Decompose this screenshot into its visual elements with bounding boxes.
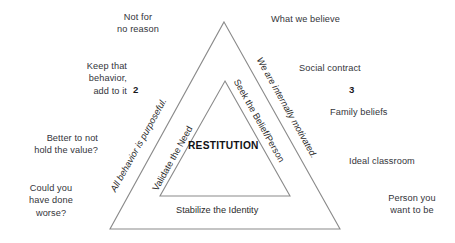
note-not-for-no-reason: Not for no reason	[101, 11, 175, 36]
diagram-canvas: RESTITUTION Stabilize the Identity All b…	[0, 0, 455, 243]
note-what-we-believe: What we believe	[271, 13, 381, 25]
note-person-you-want-to-be: Person you want to be	[375, 192, 449, 217]
note-social-contract: Social contract	[299, 62, 409, 74]
numeral-2: 2	[133, 84, 138, 95]
note-ideal-classroom: Ideal classroom	[349, 155, 455, 167]
numeral-3: 3	[349, 84, 354, 95]
note-keep-that-behavior: Keep that behavior, add to it	[49, 60, 127, 97]
note-family-beliefs: Family beliefs	[330, 106, 440, 118]
note-could-you-have-done-worse: Could you have done worse?	[12, 182, 90, 219]
edge-label-stabilize-the-identity: Stabilize the Identity	[176, 205, 258, 215]
core-label-restitution: RESTITUTION	[188, 140, 259, 151]
note-better-to-not-hold-the-value: Better to not hold the value?	[12, 132, 98, 157]
